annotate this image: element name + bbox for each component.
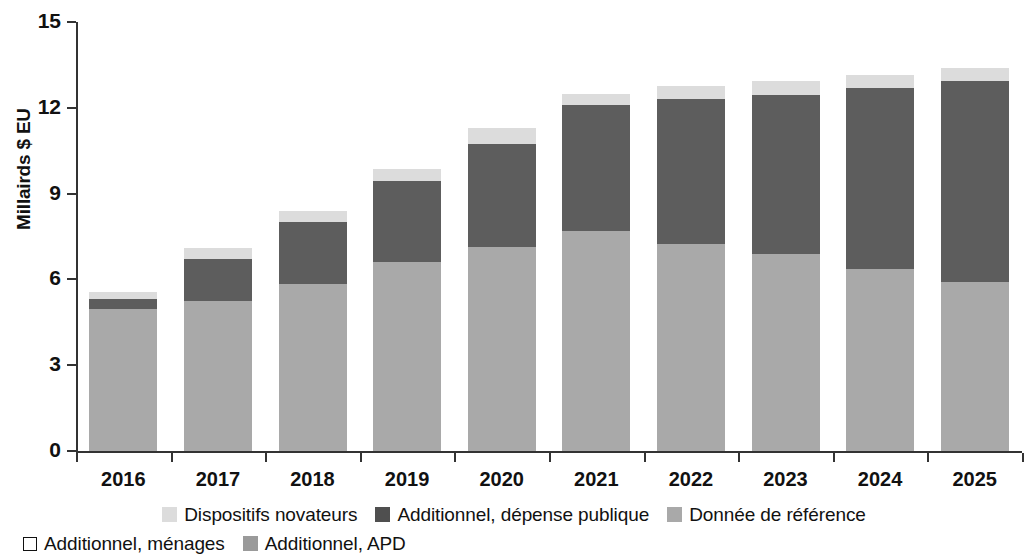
y-axis-tick-label: 6	[49, 266, 61, 290]
bar-segment-innovative	[89, 292, 157, 299]
x-axis-label-2022: 2022	[669, 468, 714, 491]
stacked-bar-chart: Millairds $ EU 03691215 2016201720182019…	[0, 0, 1028, 560]
bar-segment-baseline	[657, 244, 725, 451]
legend-item-households[interactable]: Additionnel, ménages	[23, 533, 225, 555]
x-axis-label-2020: 2020	[479, 468, 524, 491]
bar-segment-innovative	[279, 211, 347, 222]
bar-segment-innovative	[184, 248, 252, 259]
x-axis-tick	[738, 453, 740, 462]
x-axis-tick	[644, 453, 646, 462]
households-swatch-icon	[23, 537, 37, 551]
bar-2021	[562, 94, 630, 452]
bar-2018	[279, 211, 347, 451]
x-axis-label-2017: 2017	[196, 468, 241, 491]
bar-segment-innovative	[373, 169, 441, 180]
y-axis-tick: 9	[67, 193, 76, 195]
x-axis-label-2018: 2018	[290, 468, 335, 491]
x-axis-tick	[265, 453, 267, 462]
bar-2025	[941, 68, 1009, 451]
x-axis-label-2021: 2021	[574, 468, 619, 491]
bar-segment-baseline	[89, 309, 157, 451]
bar-2019	[373, 169, 441, 451]
bar-segment-innovative	[468, 128, 536, 144]
y-axis-tick-label: 3	[49, 352, 61, 376]
bars-container	[76, 10, 1022, 452]
bar-segment-public-spending	[657, 99, 725, 243]
bar-segment-baseline	[846, 269, 914, 451]
bar-segment-public-spending	[846, 88, 914, 270]
y-axis-tick: 6	[67, 278, 76, 280]
x-axis-tick	[454, 453, 456, 462]
legend-item-apd[interactable]: Additionnel, APD	[243, 533, 406, 555]
bar-segment-public-spending	[752, 95, 820, 254]
bar-segment-baseline	[562, 231, 630, 451]
x-axis-tick	[76, 453, 78, 462]
bar-segment-public-spending	[941, 81, 1009, 283]
bar-segment-baseline	[941, 282, 1009, 451]
plot-area: 03691215 2016201720182019202020212022202…	[76, 10, 1022, 464]
legend-item-innov[interactable]: Dispositifs novateurs	[162, 504, 357, 526]
bar-2023	[752, 81, 820, 451]
legend-label: Donnée de référence	[689, 504, 866, 526]
bar-segment-baseline	[279, 284, 347, 451]
y-axis-tick-label: 0	[49, 438, 61, 462]
y-axis-tick: 3	[67, 364, 76, 366]
x-axis-tick	[549, 453, 551, 462]
bar-2016	[89, 292, 157, 451]
x-axis-tick	[1022, 453, 1024, 462]
bar-2024	[846, 75, 914, 451]
x-axis-label-2024: 2024	[858, 468, 903, 491]
bar-segment-public-spending	[373, 181, 441, 263]
legend-item-base[interactable]: Donnée de référence	[667, 504, 866, 526]
x-axis-label-2019: 2019	[385, 468, 430, 491]
legend-label: Additionnel, APD	[265, 533, 406, 555]
bar-segment-public-spending	[468, 144, 536, 247]
legend-label: Additionnel, dépense publique	[397, 504, 649, 526]
bar-segment-innovative	[657, 86, 725, 99]
x-axis-label-2025: 2025	[952, 468, 997, 491]
legend-label: Additionnel, ménages	[44, 533, 225, 555]
x-axis-label-2023: 2023	[763, 468, 808, 491]
bar-2022	[657, 86, 725, 451]
bar-segment-public-spending	[279, 222, 347, 283]
legend-item-public[interactable]: Additionnel, dépense publique	[375, 504, 649, 526]
legend-label: Dispositifs novateurs	[184, 504, 357, 526]
bar-2017	[184, 248, 252, 451]
public-swatch-icon	[375, 507, 390, 522]
bar-segment-baseline	[752, 254, 820, 451]
base-swatch-icon	[667, 507, 682, 522]
legend-row-primary: Dispositifs novateursAdditionnel, dépens…	[0, 500, 1028, 529]
legend-row-secondary: Additionnel, ménagesAdditionnel, APD	[0, 529, 1028, 558]
bar-segment-baseline	[468, 247, 536, 451]
x-axis-label-2016: 2016	[101, 468, 146, 491]
bar-segment-public-spending	[89, 299, 157, 309]
y-axis-tick: 12	[67, 107, 76, 109]
bar-segment-baseline	[184, 301, 252, 451]
bar-segment-innovative	[846, 75, 914, 88]
x-axis-tick	[171, 453, 173, 462]
x-axis-tick	[927, 453, 929, 462]
bar-segment-innovative	[752, 81, 820, 95]
bar-segment-innovative	[941, 68, 1009, 81]
bar-segment-baseline	[373, 262, 441, 451]
y-axis-tick-label: 12	[38, 95, 61, 119]
x-axis-tick	[360, 453, 362, 462]
bar-segment-innovative	[562, 94, 630, 105]
y-axis-tick-label: 15	[38, 9, 61, 33]
apd-swatch-icon	[243, 536, 258, 551]
y-axis-tick: 15	[67, 21, 76, 23]
y-axis-tick-label: 9	[49, 181, 61, 205]
y-axis-tick: 0	[67, 450, 76, 452]
bar-2020	[468, 128, 536, 451]
chart-legend: Dispositifs novateursAdditionnel, dépens…	[0, 500, 1028, 558]
y-axis-title: Millairds $ EU	[13, 79, 35, 259]
x-axis-tick	[833, 453, 835, 462]
bar-segment-public-spending	[184, 259, 252, 300]
innov-swatch-icon	[162, 507, 177, 522]
bar-segment-public-spending	[562, 105, 630, 231]
